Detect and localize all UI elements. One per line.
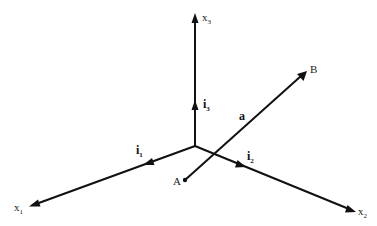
axis-x1-arrowhead-icon — [29, 200, 41, 207]
unit-vector-i1-label: i1 — [136, 143, 143, 159]
axis-x3-label: x3 — [202, 11, 212, 26]
axis-x2-label: x2 — [358, 205, 368, 220]
axis-x2 — [195, 146, 356, 213]
axis-x2-line — [195, 146, 349, 209]
point-a-label: A — [173, 175, 181, 187]
unit-vector-i2-arrowhead-icon — [235, 160, 246, 168]
vector-a-line — [185, 76, 301, 180]
axis-x1-label: x1 — [14, 201, 24, 216]
axis-x2-arrowhead-icon — [345, 205, 356, 213]
axis-x3-arrowhead-icon — [192, 13, 199, 23]
point-b-label: B — [310, 63, 317, 75]
axis-x1-line — [36, 146, 195, 204]
unit-vector-i1-arrowhead-icon — [143, 158, 155, 165]
axis-x3 — [192, 13, 199, 146]
axis-x1 — [29, 146, 195, 207]
unit-vector-i2-label: i2 — [247, 149, 254, 165]
vector-a-label: a — [239, 109, 245, 123]
point-a-dot-icon — [183, 178, 187, 182]
coordinate-diagram: x3 x1 x2 i3 i1 i2 a A B — [0, 0, 377, 226]
unit-vector-i3-label: i3 — [203, 97, 210, 113]
unit-vector-i3-arrowhead-icon — [192, 100, 199, 110]
